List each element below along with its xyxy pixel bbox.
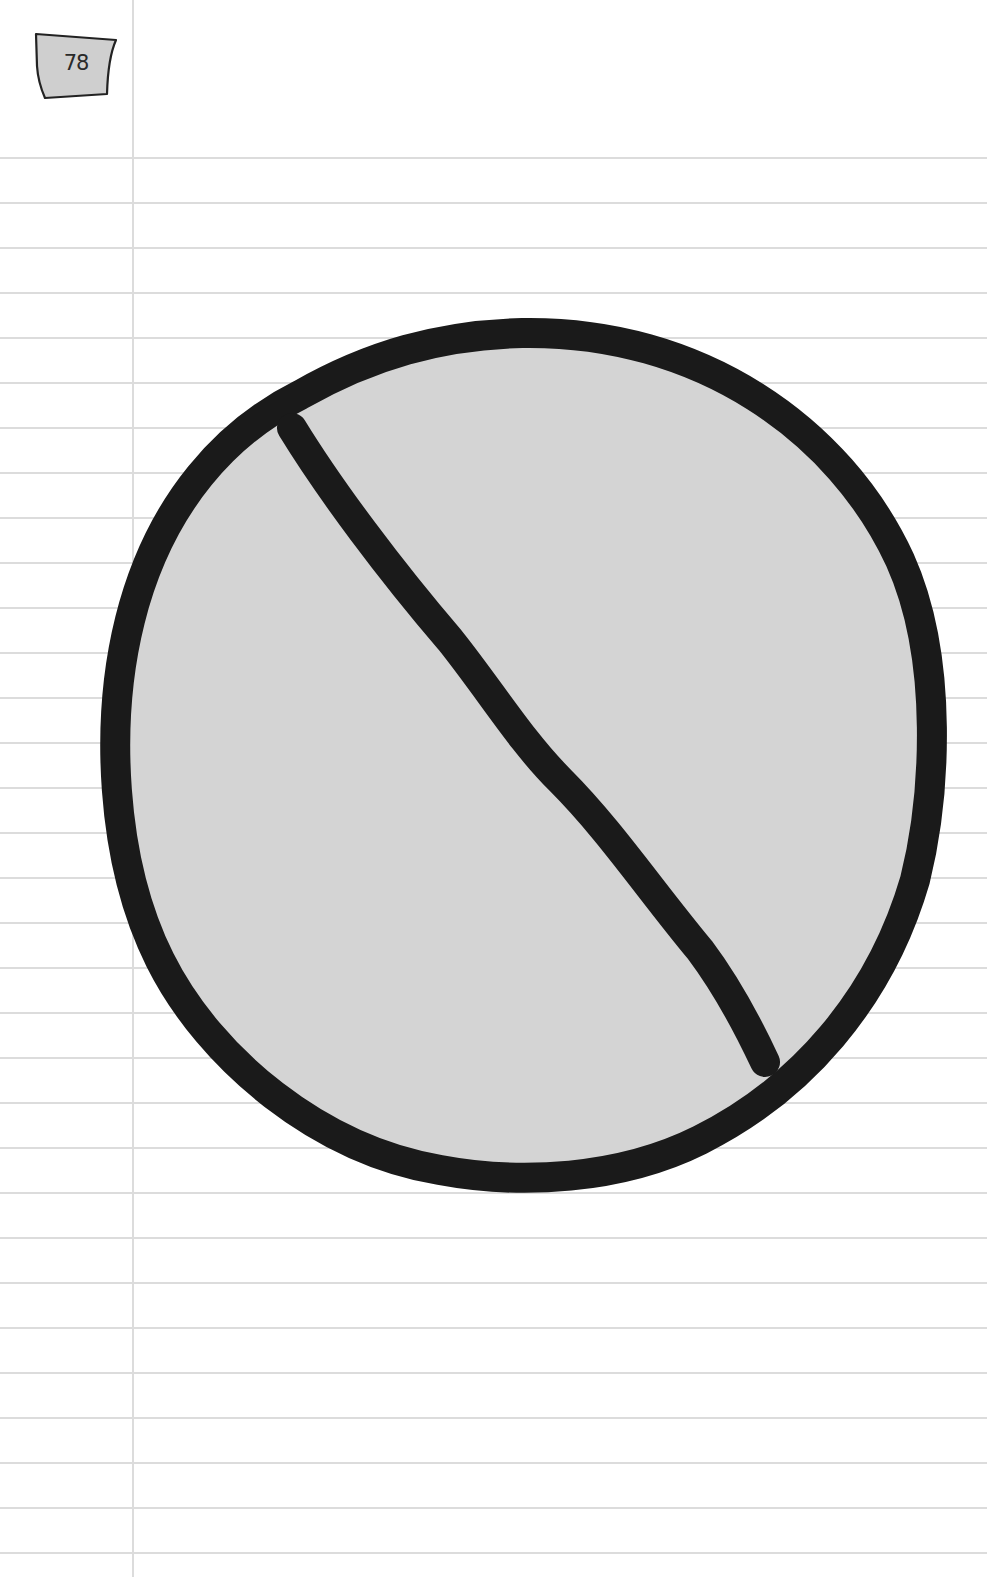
notebook-page: 78 — [0, 0, 987, 1577]
prohibition-sign-icon — [0, 0, 987, 1577]
